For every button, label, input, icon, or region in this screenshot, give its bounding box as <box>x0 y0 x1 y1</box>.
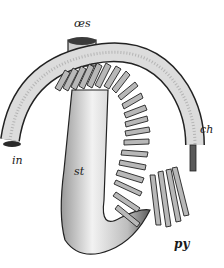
label-ch: ch <box>200 124 213 135</box>
ch-duct <box>190 145 196 171</box>
stomach-illustration <box>0 0 224 268</box>
label-pyloric-caeca: py <box>174 238 189 250</box>
label-oesophagus: œs <box>74 18 91 29</box>
label-intestine: in <box>12 155 23 166</box>
anatomical-figure: œs in st ch py <box>0 0 224 268</box>
label-stomach: st <box>74 166 84 177</box>
